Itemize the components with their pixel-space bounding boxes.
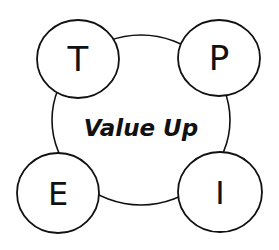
value-up-diagram: T P E I Value Up <box>0 0 279 250</box>
node-i-label: I <box>215 174 224 212</box>
node-t: T <box>37 20 119 98</box>
node-t-label: T <box>67 39 89 79</box>
node-e: E <box>17 153 99 233</box>
center-label: Value Up <box>84 115 199 141</box>
node-p-label: P <box>209 38 230 78</box>
node-i: I <box>178 152 262 232</box>
node-e-label: E <box>48 175 68 213</box>
node-p: P <box>178 20 260 96</box>
